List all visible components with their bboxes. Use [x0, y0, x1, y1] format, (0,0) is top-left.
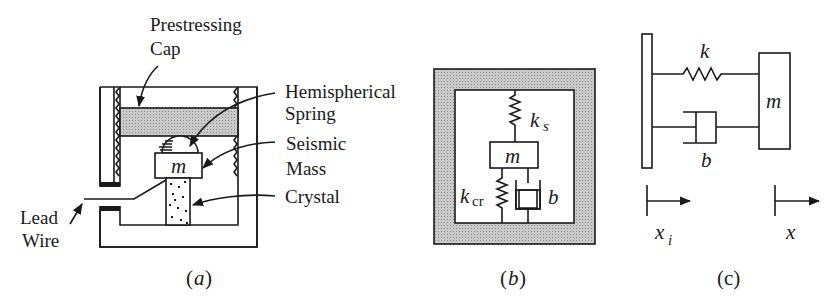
label-crystal: Crystal	[285, 186, 340, 207]
xi-label: x	[654, 220, 665, 244]
label-hemispherical: Hemispherical	[285, 81, 396, 102]
prestressing-cap	[120, 108, 238, 136]
x-label: x	[785, 220, 796, 244]
kcr-label: k	[460, 184, 470, 208]
label-prestressing: Prestressing	[150, 14, 242, 35]
xi-subscript: i	[668, 232, 672, 248]
caption-c: (c)	[717, 266, 740, 290]
spring-k-label: k	[700, 39, 710, 63]
label-wire: Wire	[22, 230, 59, 251]
lead-slot-top	[100, 182, 120, 187]
base-plate	[642, 34, 652, 168]
pointer-prestressing-cap	[139, 66, 158, 106]
damper-label-c: b	[701, 148, 712, 172]
threads-left	[116, 88, 119, 176]
caption-a-letter: a	[194, 266, 205, 290]
crystal	[166, 178, 190, 225]
caption-a-open: (	[186, 266, 193, 290]
ks-label: k	[530, 108, 540, 132]
label-mass: Mass	[286, 158, 326, 179]
label-seismic: Seismic	[286, 133, 346, 154]
pointer-crystal	[193, 195, 275, 205]
caption-b-open: (	[500, 266, 507, 290]
kcr-subscript: cr	[472, 193, 484, 209]
damper-c	[652, 112, 759, 143]
panel-a-piezoelectric-accelerometer: m Prestressing Cap Hemispherical Spring …	[20, 14, 396, 290]
lead-slot-bottom	[100, 206, 120, 211]
label-spring: Spring	[285, 103, 336, 124]
mass-label-a: m	[171, 154, 186, 178]
ks-subscript: s	[543, 118, 549, 134]
spring-k	[652, 68, 759, 80]
pointer-lead-wire	[70, 204, 82, 224]
panel-b-lumped-model: k s m k cr b ( b )	[434, 69, 595, 290]
caption-a-close: )	[205, 266, 212, 290]
label-lead: Lead	[20, 207, 58, 228]
panel-c-base-excited-system: k b m x i x (c)	[642, 34, 819, 290]
caption-b-letter: b	[508, 266, 519, 290]
mass-label-b: m	[505, 144, 520, 168]
pointer-seismic-mass	[203, 142, 275, 168]
label-cap: Cap	[150, 38, 181, 59]
lead-wire	[84, 180, 166, 199]
mass-label-c: m	[766, 89, 781, 113]
damper-label-b: b	[548, 185, 559, 209]
caption-b-close: )	[519, 266, 526, 290]
accelerometer-figure: m Prestressing Cap Hemispherical Spring …	[0, 0, 839, 308]
